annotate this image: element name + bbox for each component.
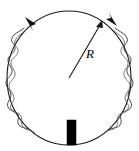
radius-label: R bbox=[85, 46, 94, 61]
radius-arrow-line bbox=[69, 25, 100, 78]
physics-diagram-figure: R bbox=[0, 0, 139, 151]
coil-winding-right-inner bbox=[104, 30, 130, 133]
coil-winding-left-inner bbox=[9, 30, 35, 133]
radius-arrow-head bbox=[96, 20, 103, 28]
current-direction-arrow-right bbox=[106, 13, 117, 26]
diagram-canvas: R bbox=[0, 0, 139, 151]
bar-element bbox=[67, 120, 76, 145]
coil-winding-left bbox=[6, 28, 32, 131]
